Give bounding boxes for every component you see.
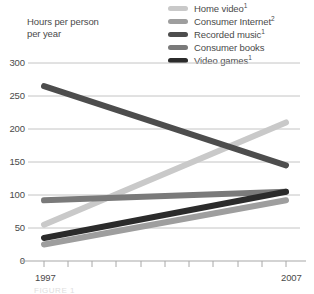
chart-container: Home video1 Consumer Internet2 Recorded … — [0, 0, 314, 294]
x-axis-ticks — [44, 261, 286, 267]
chart-plot-area — [0, 0, 314, 294]
figure-caption: FIGURE 1 — [34, 286, 75, 294]
series-line-recorded-music — [44, 86, 286, 165]
